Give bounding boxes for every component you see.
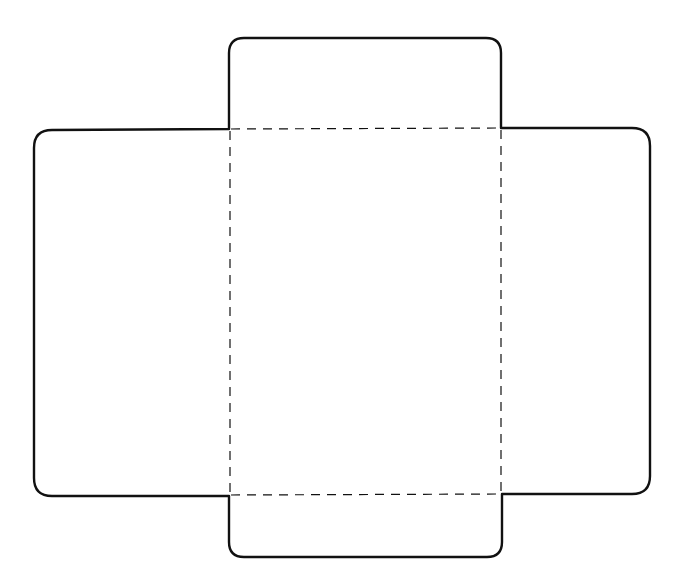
box-net-diagram — [0, 0, 679, 584]
